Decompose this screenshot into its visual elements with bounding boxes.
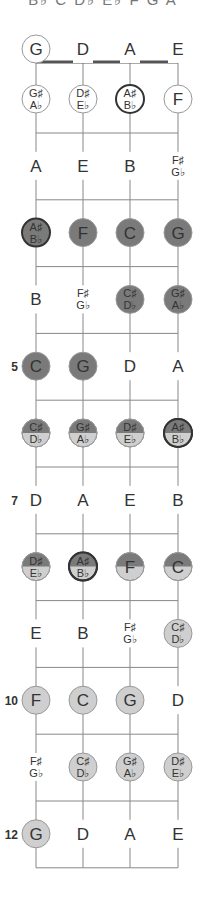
note-sharp-name: D♯ bbox=[76, 87, 90, 99]
note-marker: C bbox=[69, 686, 97, 714]
note-name: G bbox=[76, 357, 89, 376]
note-name: D bbox=[124, 357, 136, 376]
note-name: B bbox=[172, 491, 183, 510]
note-marker: D bbox=[120, 352, 140, 380]
note-name: A bbox=[172, 357, 184, 376]
note-sharp-name: C♯ bbox=[171, 621, 185, 633]
note-name: G bbox=[123, 691, 136, 710]
note-name: A bbox=[124, 40, 136, 59]
note-flat-name: D♭ bbox=[30, 433, 43, 445]
note-sharp-name: G♯ bbox=[76, 421, 91, 433]
note-name: C bbox=[124, 224, 136, 243]
note-name: F bbox=[78, 224, 88, 243]
fret-number-label: 7 bbox=[11, 494, 18, 508]
note-marker: F♯G♭ bbox=[73, 285, 93, 313]
note-flat-name: B♭ bbox=[172, 433, 184, 445]
note-flat-name: D♭ bbox=[124, 299, 137, 311]
note-sharp-name: D♯ bbox=[29, 555, 43, 567]
fret-number-label: 10 bbox=[5, 694, 19, 708]
note-flat-name: A♭ bbox=[172, 299, 184, 311]
note-marker: D bbox=[73, 35, 93, 63]
note-sharp-name: A♯ bbox=[124, 87, 137, 99]
note-marker: C bbox=[116, 219, 144, 247]
note-sharp-name: C♯ bbox=[76, 755, 90, 767]
note-marker: F bbox=[164, 85, 192, 113]
note-marker: G♯A♭ bbox=[116, 753, 144, 781]
note-marker: E bbox=[120, 486, 140, 514]
note-marker: A♯B♭ bbox=[22, 219, 50, 247]
note-flat-name: E♭ bbox=[30, 567, 42, 579]
note-marker: G bbox=[69, 352, 97, 380]
note-flat-name: B♭ bbox=[124, 99, 136, 111]
note-name: E bbox=[172, 825, 183, 844]
note-marker: C bbox=[164, 553, 192, 581]
note-marker: G bbox=[116, 686, 144, 714]
note-marker: G bbox=[164, 219, 192, 247]
note-flat-name: G♭ bbox=[29, 767, 43, 779]
note-sharp-name: F♯ bbox=[124, 621, 137, 633]
note-flat-name: B♭ bbox=[77, 567, 89, 579]
note-marker: F bbox=[116, 553, 144, 581]
note-marker: C♯D♭ bbox=[69, 753, 97, 781]
note-sharp-name: A♯ bbox=[30, 221, 43, 233]
note-name: B bbox=[30, 290, 41, 309]
note-flat-name: G♭ bbox=[171, 166, 185, 178]
note-marker: F♯G♭ bbox=[26, 753, 46, 781]
note-marker: B bbox=[73, 619, 93, 647]
note-flat-name: G♭ bbox=[123, 633, 137, 645]
note-marker: B bbox=[26, 285, 46, 313]
note-marker: E bbox=[73, 152, 93, 180]
note-marker: A bbox=[26, 152, 46, 180]
note-marker: G bbox=[22, 820, 50, 848]
note-marker: C♯D♭ bbox=[116, 285, 144, 313]
note-sharp-name: G♯ bbox=[123, 755, 138, 767]
note-sharp-name: D♯ bbox=[123, 421, 137, 433]
note-name: B bbox=[77, 624, 88, 643]
note-marker: G bbox=[22, 35, 50, 63]
note-name: D bbox=[77, 825, 89, 844]
note-marker: C♯D♭ bbox=[22, 419, 50, 447]
note-name: D bbox=[172, 691, 184, 710]
note-name: A bbox=[77, 491, 89, 510]
note-marker: C bbox=[22, 352, 50, 380]
note-marker: C♯D♭ bbox=[164, 619, 192, 647]
note-flat-name: A♭ bbox=[124, 767, 136, 779]
note-sharp-name: A♯ bbox=[172, 421, 185, 433]
note-marker: A bbox=[120, 35, 140, 63]
note-sharp-name: A♯ bbox=[77, 555, 90, 567]
note-marker: E bbox=[26, 619, 46, 647]
note-name: F bbox=[173, 90, 183, 109]
fret-number-label: 5 bbox=[11, 360, 18, 374]
note-flat-name: G♭ bbox=[76, 299, 90, 311]
note-name: A bbox=[30, 157, 42, 176]
note-name: E bbox=[124, 491, 135, 510]
note-name: E bbox=[172, 40, 183, 59]
note-flat-name: A♭ bbox=[30, 99, 42, 111]
note-name: A bbox=[124, 825, 136, 844]
note-sharp-name: F♯ bbox=[77, 287, 90, 299]
note-marker: D♯E♭ bbox=[164, 753, 192, 781]
note-name: D bbox=[30, 491, 42, 510]
note-marker: A♯B♭ bbox=[69, 553, 97, 581]
note-marker: D bbox=[73, 820, 93, 848]
note-marker: A bbox=[73, 486, 93, 514]
note-sharp-name: G♯ bbox=[171, 287, 186, 299]
note-name: D bbox=[77, 40, 89, 59]
note-name: E bbox=[30, 624, 41, 643]
note-sharp-name: C♯ bbox=[29, 421, 43, 433]
note-marker: G♯A♭ bbox=[69, 419, 97, 447]
note-marker: A bbox=[120, 820, 140, 848]
note-sharp-name: C♯ bbox=[123, 287, 137, 299]
note-marker: F bbox=[69, 219, 97, 247]
note-name: C bbox=[172, 558, 184, 577]
note-marker: A♯B♭ bbox=[164, 419, 192, 447]
note-flat-name: E♭ bbox=[172, 767, 184, 779]
note-marker: G♯A♭ bbox=[164, 285, 192, 313]
note-flat-name: B♭ bbox=[30, 233, 42, 245]
note-marker: A bbox=[168, 352, 188, 380]
note-marker: F♯G♭ bbox=[168, 152, 188, 180]
note-marker: F bbox=[22, 686, 50, 714]
note-marker: D♯E♭ bbox=[22, 553, 50, 581]
note-sharp-name: D♯ bbox=[171, 755, 185, 767]
note-marker: B bbox=[120, 152, 140, 180]
